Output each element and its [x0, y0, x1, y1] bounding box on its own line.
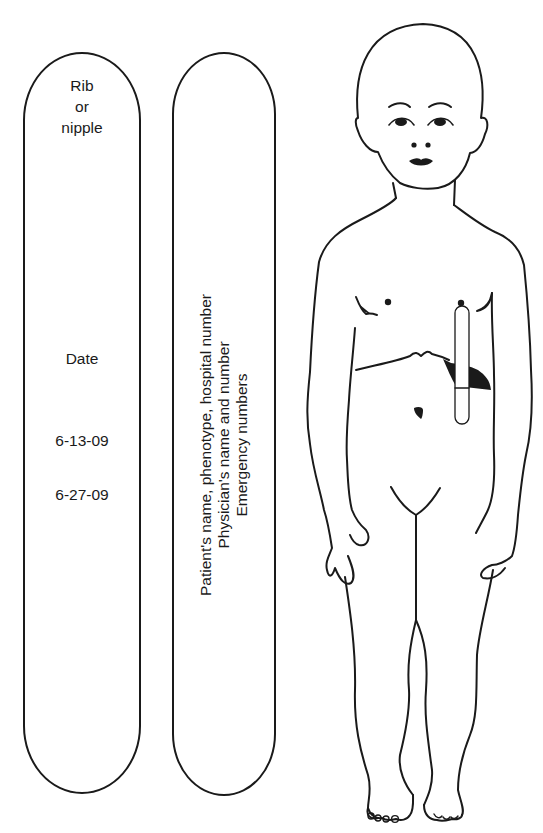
- child-body-outline: [0, 0, 543, 833]
- body-outline-right-side: [307, 198, 396, 584]
- nipple-left: [458, 300, 464, 306]
- inner-arm-left: [476, 293, 494, 533]
- groin-line: [391, 487, 440, 515]
- axilla-left: [477, 293, 492, 311]
- right-eye: [428, 118, 453, 126]
- nostril-right: [425, 142, 430, 147]
- neck-right: [454, 180, 455, 205]
- right-leg-outer: [345, 577, 378, 818]
- neck-left: [393, 183, 396, 198]
- costal-margin: [356, 352, 449, 370]
- left-leg-inner: [416, 620, 432, 805]
- left-eyebrow: [389, 103, 410, 107]
- left-leg-outer: [458, 570, 493, 815]
- inner-arm-right: [347, 328, 369, 545]
- nipple-right: [385, 299, 391, 305]
- mouth: [409, 158, 433, 165]
- left-toes: [434, 814, 458, 819]
- right-leg-inner: [400, 620, 416, 795]
- left-eye: [389, 118, 414, 126]
- nostril-left: [411, 142, 416, 147]
- umbilicus: [414, 407, 423, 419]
- right-eyebrow: [429, 103, 451, 107]
- measuring-tape: [455, 306, 469, 424]
